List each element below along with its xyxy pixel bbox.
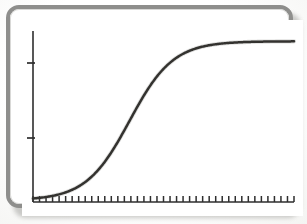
figure-root: [0, 0, 307, 224]
x-axis-ticks: [33, 196, 294, 202]
curve-ink-halo: [33, 41, 294, 198]
plot-canvas: [22, 20, 303, 216]
plot-panel: [22, 20, 303, 216]
figure-frame: [6, 5, 293, 208]
sigmoid-curve: [33, 41, 294, 198]
